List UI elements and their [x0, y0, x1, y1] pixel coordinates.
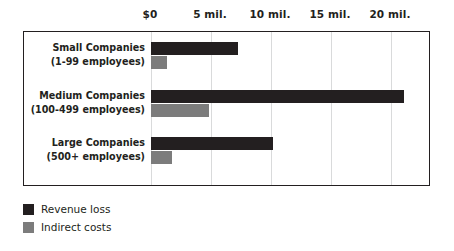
legend-item: Revenue loss	[23, 201, 111, 217]
legend-item: Indirect costs	[23, 219, 111, 235]
group-label-sublabel: (100-499 employees)	[0, 103, 145, 117]
bar-indirect-costs	[151, 104, 209, 117]
x-tick-label: 15 mil.	[309, 8, 350, 21]
group-label: Large Companies(500+ employees)	[0, 136, 151, 163]
bar-revenue-loss	[151, 90, 404, 103]
bar-revenue-loss	[151, 137, 273, 150]
bar-indirect-costs	[151, 151, 172, 164]
legend-swatch	[23, 204, 34, 215]
group-label-name: Medium Companies	[39, 90, 145, 101]
x-tick-label: 10 mil.	[249, 8, 290, 21]
x-axis-tick-labels: $05 mil.10 mil.15 mil.20 mil.	[0, 8, 454, 28]
bar-indirect-costs	[151, 56, 167, 69]
legend-label: Revenue loss	[41, 203, 110, 216]
chart-legend: Revenue lossIndirect costs	[23, 201, 111, 237]
legend-label: Indirect costs	[41, 221, 111, 234]
bar-groups: Small Companies(1-99 employees)Medium Co…	[24, 32, 429, 185]
group-label-sublabel: (500+ employees)	[0, 150, 145, 164]
bar-chart: $05 mil.10 mil.15 mil.20 mil. Small Comp…	[0, 0, 454, 251]
group-label: Small Companies(1-99 employees)	[0, 41, 151, 68]
x-tick-label: 5 mil.	[193, 8, 227, 21]
x-tick-label: $0	[143, 8, 158, 21]
group-label-sublabel: (1-99 employees)	[0, 55, 145, 69]
legend-swatch	[23, 222, 34, 233]
group-label: Medium Companies(100-499 employees)	[0, 89, 151, 116]
x-tick-label: 20 mil.	[369, 8, 410, 21]
group-label-name: Small Companies	[52, 42, 145, 53]
bar-revenue-loss	[151, 42, 238, 55]
plot-area: Small Companies(1-99 employees)Medium Co…	[23, 31, 430, 186]
group-label-name: Large Companies	[52, 137, 145, 148]
